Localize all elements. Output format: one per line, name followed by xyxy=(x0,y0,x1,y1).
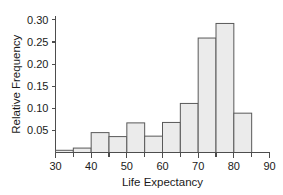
y-tick-label: 0.30 xyxy=(27,14,48,26)
y-axis-tick-labels: 0.050.100.150.200.250.30 xyxy=(27,14,48,136)
x-tick-label: 60 xyxy=(156,160,168,172)
histogram-bar xyxy=(180,103,198,152)
histogram-bar xyxy=(145,136,163,152)
x-axis-title: Life Expectancy xyxy=(122,176,203,188)
histogram-bar xyxy=(91,133,109,153)
histogram-bar xyxy=(216,23,234,152)
histogram-bar xyxy=(127,123,145,153)
x-tick-label: 90 xyxy=(263,160,275,172)
histogram-figure: 0.050.100.150.200.250.30 Relative Freque… xyxy=(0,0,283,195)
y-tick-label: 0.10 xyxy=(27,102,48,114)
histogram-bar xyxy=(73,148,91,152)
histogram-svg: 0.050.100.150.200.250.30 Relative Freque… xyxy=(0,0,283,195)
histogram-bar xyxy=(109,137,127,153)
x-tick-label: 80 xyxy=(228,160,240,172)
histogram-bar xyxy=(234,113,252,152)
histogram-bars xyxy=(56,23,252,152)
y-tick-label: 0.25 xyxy=(27,36,48,48)
x-axis-group: 30405060708090 Life Expectancy xyxy=(49,153,275,188)
y-axis-title: Relative Frequency xyxy=(10,34,22,133)
y-tick-label: 0.20 xyxy=(27,58,48,70)
x-axis-ticks xyxy=(56,153,270,158)
y-tick-label: 0.15 xyxy=(27,80,48,92)
y-axis-ticks xyxy=(52,20,56,130)
histogram-bar xyxy=(163,122,181,152)
x-tick-label: 40 xyxy=(85,160,97,172)
x-axis-tick-labels: 30405060708090 xyxy=(49,160,275,172)
histogram-bar xyxy=(198,38,216,152)
x-tick-label: 50 xyxy=(121,160,133,172)
x-tick-label: 70 xyxy=(192,160,204,172)
y-tick-label: 0.05 xyxy=(27,124,48,136)
plot-area xyxy=(56,23,252,152)
y-axis-group: 0.050.100.150.200.250.30 Relative Freque… xyxy=(10,14,56,153)
x-tick-label: 30 xyxy=(49,160,61,172)
